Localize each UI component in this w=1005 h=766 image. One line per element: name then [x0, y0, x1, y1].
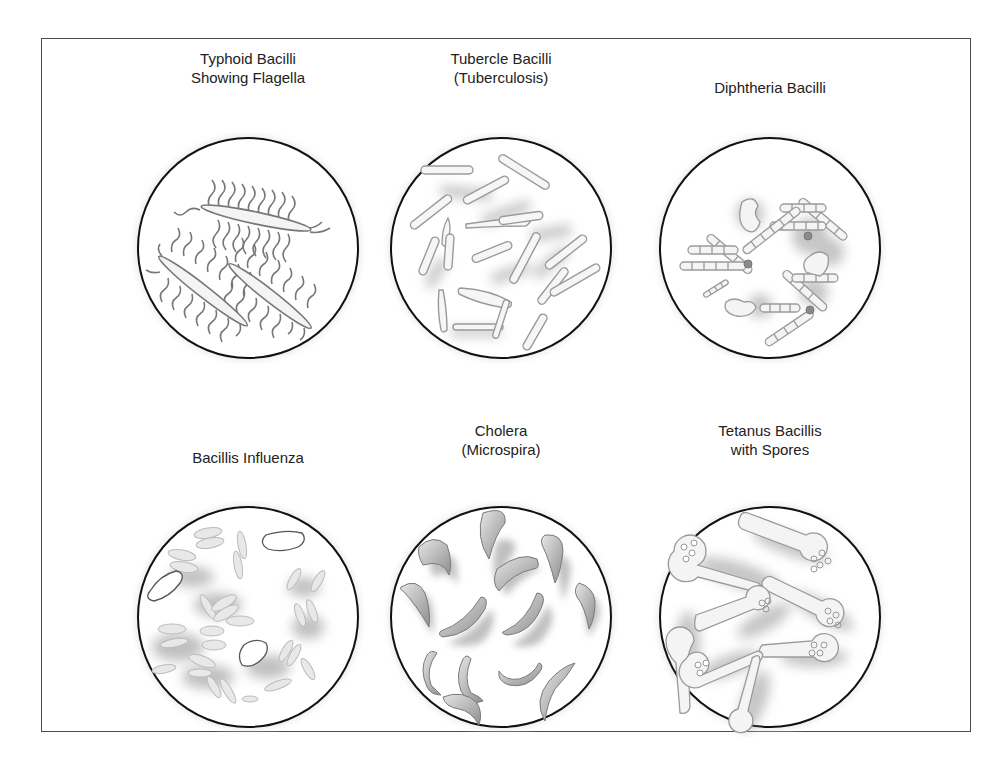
label-diphtheria: Diphtheria Bacilli — [635, 78, 905, 97]
label-line: (Microspira) — [366, 440, 636, 459]
label-line: Showing Flagella — [113, 68, 383, 87]
label-tetanus: Tetanus Bacillis with Spores — [635, 421, 905, 459]
dish-cholera — [381, 497, 621, 737]
label-cholera: Cholera (Microspira) — [366, 421, 636, 459]
label-line: Diphtheria Bacilli — [635, 78, 905, 97]
label-line: (Tuberculosis) — [366, 68, 636, 87]
label-influenza: Bacillis Influenza — [113, 448, 383, 467]
dish-influenza — [128, 497, 368, 737]
label-line: Tubercle Bacilli — [366, 49, 636, 68]
dish-typhoid — [128, 128, 368, 368]
dish-tubercle — [381, 128, 621, 368]
label-typhoid: Typhoid Bacilli Showing Flagella — [113, 49, 383, 87]
dish-diphtheria — [650, 128, 890, 368]
label-line: Cholera — [366, 421, 636, 440]
dish-tetanus — [650, 497, 890, 737]
label-line: Typhoid Bacilli — [113, 49, 383, 68]
label-line: Bacillis Influenza — [113, 448, 383, 467]
label-line: Tetanus Bacillis — [635, 421, 905, 440]
label-line: with Spores — [635, 440, 905, 459]
label-tubercle: Tubercle Bacilli (Tuberculosis) — [366, 49, 636, 87]
